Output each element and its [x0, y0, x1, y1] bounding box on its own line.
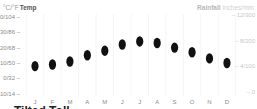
- temp-axis: 40/104 –30/86 –20/68 –10/50 –0/32 –-10/1…: [0, 14, 21, 97]
- temp-tick-label: 30/86 –: [0, 29, 21, 35]
- month-label: A: [85, 99, 89, 105]
- month-label: O: [190, 99, 195, 105]
- temp-tick-label: -10/14 –: [0, 91, 21, 97]
- temp-marker: [31, 61, 38, 71]
- temp-axis-title: °C/°FTemp: [3, 4, 37, 12]
- month-label: D: [225, 99, 230, 105]
- temp-marker: [119, 39, 126, 49]
- month-label: A: [155, 99, 159, 105]
- temp-tick-label: 20/68 –: [0, 45, 21, 51]
- cut-off-heading: Tilted Toll: [14, 104, 70, 109]
- temp-tick-label: 0/32 –: [3, 75, 20, 81]
- temp-marker: [49, 59, 56, 69]
- temp-marker: [84, 50, 91, 60]
- rainfall-tick-label: – 4/100: [235, 63, 256, 69]
- temp-marker: [171, 42, 178, 52]
- rainfall-axis: – 12/300– 8/200– 4/100– 0: [232, 12, 256, 95]
- temp-marker: [136, 36, 143, 46]
- month-label: M: [102, 99, 107, 105]
- temp-marker: [188, 47, 195, 57]
- temp-marker: [101, 45, 108, 55]
- rainfall-tick-label: – 8/200: [235, 38, 256, 44]
- rainfall-axis-title: Rainfallinches/mm: [197, 4, 254, 11]
- temp-tick-label: 10/50 –: [0, 60, 21, 66]
- climate-chart: °C/°FTemp Rainfallinches/mm 40/104 –30/8…: [0, 0, 257, 109]
- rainfall-tick-label: – 12/300: [232, 12, 256, 18]
- month-label: N: [207, 99, 211, 105]
- temp-marker: [66, 56, 73, 66]
- temp-tick-label: 40/104 –: [0, 14, 21, 20]
- temp-marker: [154, 38, 161, 48]
- temp-marker: [206, 53, 213, 63]
- month-label: J: [138, 99, 141, 105]
- rainfall-tick-label: – 0: [247, 89, 256, 95]
- month-label: J: [121, 99, 124, 105]
- month-columns: [26, 14, 235, 96]
- temp-marker: [223, 58, 230, 68]
- month-label: S: [173, 99, 177, 105]
